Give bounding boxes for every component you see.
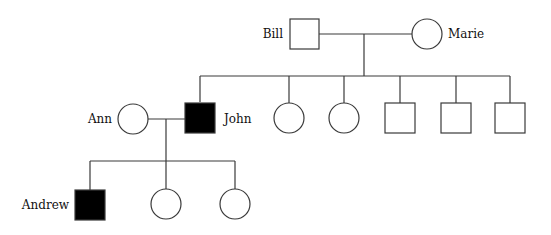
bill-label: Bill (263, 27, 283, 41)
john-affected-male-symbol (185, 103, 215, 133)
andrew-affected-male-symbol (75, 190, 105, 220)
sib6-male-symbol (495, 103, 525, 133)
marie-label: Marie (448, 27, 484, 41)
sib4-male-symbol (385, 103, 415, 133)
john-label: John (222, 112, 252, 126)
sib2-female-symbol (274, 103, 304, 133)
sib3-female-symbol (329, 103, 359, 133)
pedigree-chart: Bill Marie Ann John Andrew (0, 0, 551, 235)
child2-female-symbol (151, 189, 181, 219)
child3-female-symbol (220, 189, 250, 219)
marie-female-symbol (412, 19, 442, 49)
andrew-label: Andrew (21, 198, 70, 212)
sib5-male-symbol (441, 103, 471, 133)
bill-male-symbol (290, 19, 319, 49)
ann-label: Ann (87, 112, 112, 126)
ann-female-symbol (118, 104, 148, 134)
